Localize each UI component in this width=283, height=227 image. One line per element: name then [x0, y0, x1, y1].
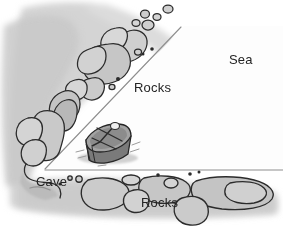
pebble-lower-dot-4: [198, 171, 201, 174]
label-sea: Sea: [229, 52, 253, 67]
rock-bottom-small-1: [164, 178, 178, 188]
pebble-lower-dot-3: [188, 172, 192, 176]
rock-bottom-lower-protrusion: [174, 196, 208, 225]
rock-small-top-3: [141, 10, 150, 18]
rock-bottom-1: [81, 178, 129, 210]
label-cave: Cave: [36, 174, 67, 189]
rock-small-top-2: [153, 14, 161, 21]
rock-small-top-5: [132, 20, 140, 27]
pebble-lower-2: [76, 176, 82, 182]
pebble-lower-1: [68, 176, 72, 180]
rock-bottom-oval: [122, 175, 140, 185]
pebble-lower-dot-2: [156, 173, 160, 177]
boat-oar-blade: [111, 123, 120, 130]
rock-tiny-1: [135, 49, 142, 55]
label-rocks-lower: Rocks: [141, 195, 178, 210]
cove-map-illustration: Sea Rocks Rocks Cave: [0, 0, 283, 227]
rock-small-top-1: [163, 5, 173, 13]
pebble-dot-3: [116, 77, 120, 81]
rock-tiny-2: [109, 84, 115, 89]
rock-left-lobe-2: [21, 140, 46, 166]
label-rocks-upper: Rocks: [134, 80, 171, 95]
pebble-dot-1: [150, 47, 154, 51]
rock-small-top-4: [142, 20, 154, 30]
rock-bottom-right-lobe: [225, 182, 267, 204]
map-drawing-canvas: [0, 0, 283, 227]
